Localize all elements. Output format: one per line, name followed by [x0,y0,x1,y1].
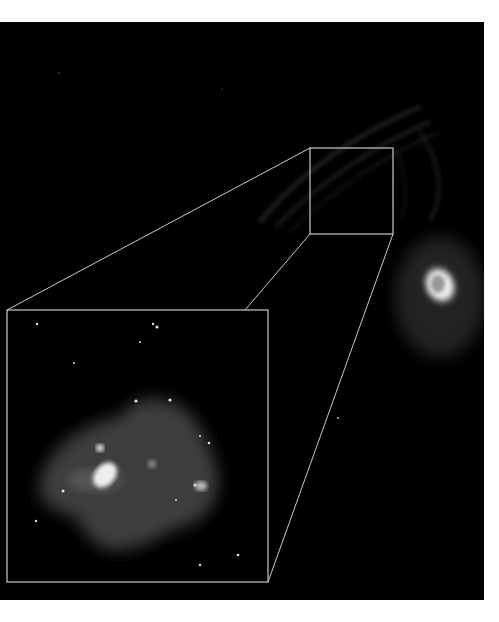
zoom-inset [7,310,268,582]
filament-wisps [260,107,440,232]
nebula-photo [0,22,484,600]
star [337,417,339,419]
star [221,88,222,89]
nebula-illustration [0,22,484,600]
star [58,72,60,74]
